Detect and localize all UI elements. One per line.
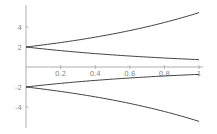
line-chart: 0.20.40.60.81 42-2-4	[0, 0, 217, 134]
series-line	[26, 47, 199, 60]
y-tick-label: -2	[15, 84, 22, 92]
series-line	[26, 13, 199, 47]
x-tick-label: 0.8	[159, 70, 170, 78]
series-line	[26, 74, 199, 87]
x-tick-label: 0.6	[124, 70, 136, 78]
x-tick-label: 0.2	[55, 70, 66, 78]
y-tick-label: 4	[18, 24, 23, 32]
y-tick-label: -4	[15, 104, 23, 112]
y-tick-label: 2	[18, 44, 22, 52]
series-line	[26, 87, 199, 121]
x-tick-label: 0.4	[90, 70, 102, 78]
y-ticks: 42-2-4	[15, 24, 28, 112]
